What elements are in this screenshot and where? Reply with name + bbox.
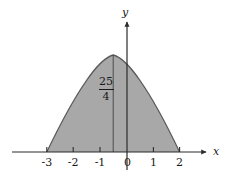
x-axis-label: x: [213, 146, 219, 157]
fraction-numerator: 25: [88, 76, 124, 89]
x-tick-label-minus1: -1: [90, 157, 110, 168]
parabola-figure: -3 -2 -1 0 1 2 x y 25 4: [0, 0, 230, 181]
x-tick-label-minus3: -3: [37, 157, 57, 168]
x-tick-label-minus2: -2: [63, 157, 83, 168]
vertex-value-fraction: 25 4: [88, 76, 124, 102]
x-tick-label-2: 2: [170, 157, 190, 168]
y-axis-label: y: [122, 7, 128, 18]
fraction-denominator: 4: [88, 90, 124, 103]
x-tick-label-origin: 0: [118, 157, 138, 168]
x-tick-label-1: 1: [143, 157, 163, 168]
